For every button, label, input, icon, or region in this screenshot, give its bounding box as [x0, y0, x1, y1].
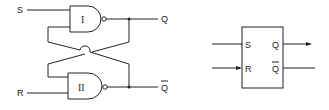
junction-dot-qbar: [128, 86, 131, 89]
feedback-qbar-to-gate1-a: [48, 27, 80, 50]
q-arrow-icon: [306, 42, 312, 46]
block-q-label: Q: [272, 40, 279, 50]
sr-flipflop-block: S R Q Q: [212, 27, 315, 88]
r-arrow-icon: [236, 66, 242, 70]
input-r-label: R: [17, 88, 24, 98]
flipflop-box: [242, 27, 283, 88]
nand-circuit: S I Q II Q R: [17, 5, 168, 99]
block-s-label: S: [245, 40, 251, 50]
gate-1-label: I: [81, 14, 84, 25]
output-qbar-label: Q: [161, 83, 168, 93]
gate-1-inversion-bubble: [102, 17, 106, 21]
wire-crossover-hop: [80, 46, 90, 52]
gate-2-label: II: [78, 82, 85, 93]
nand-gate-2: [68, 73, 102, 99]
input-s-label: S: [17, 5, 23, 15]
sr-latch-diagram: S I Q II Q R S R Q Q: [0, 0, 329, 110]
feedback-q-to-gate2-b: [48, 54, 85, 77]
block-qbar-label: Q: [272, 64, 279, 74]
nand-gate-1: [70, 6, 101, 32]
feedback-qbar-to-gate1-b: [90, 52, 129, 87]
block-r-label: R: [245, 64, 252, 74]
output-q-label: Q: [161, 14, 168, 24]
gate-2-inversion-bubble: [103, 85, 107, 89]
feedback-q-to-gate2-a: [92, 19, 129, 52]
